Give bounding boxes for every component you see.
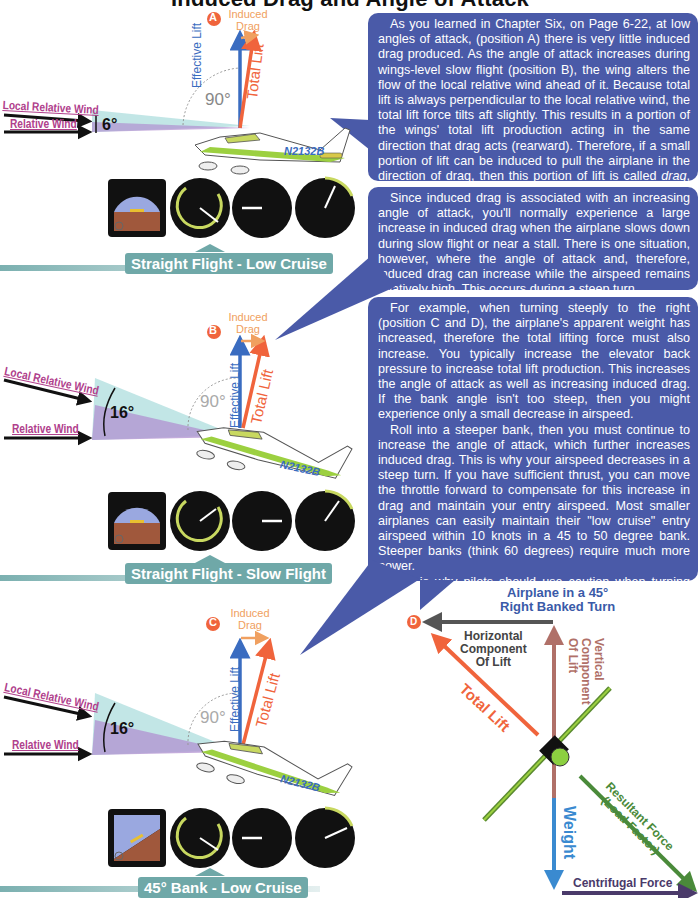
- airspeed-indicator: [170, 178, 230, 238]
- horizontal-component-label: Horizontal Component Of Lift: [460, 630, 527, 669]
- position-badge-a: A: [209, 11, 217, 23]
- weight-label: Weight: [560, 806, 578, 859]
- airplane-b: [191, 415, 352, 492]
- tachometer: [295, 808, 355, 868]
- flight-condition-banner-c: 45° Bank - Low Cruise: [138, 877, 308, 898]
- vertical-component-label: Vertical Component Of Lift: [566, 638, 605, 705]
- instrument-panel-c: [108, 808, 355, 868]
- induced-drag-label-b: Induced Drag: [228, 311, 268, 335]
- relative-wind-label-a: Relative Wind: [10, 117, 77, 131]
- tachometer: [295, 178, 355, 238]
- position-badge-b: B: [209, 324, 217, 336]
- centrifugal-force-label: Centrifugal Force: [573, 876, 672, 890]
- flight-condition-banner-b: Straight Flight - Slow Flight: [125, 563, 332, 584]
- vertical-speed-indicator: [232, 178, 292, 238]
- vertical-speed-indicator: [232, 808, 292, 868]
- attitude-indicator: [108, 179, 166, 237]
- angle-of-attack-label-a: 6°: [102, 116, 117, 134]
- effective-lift-label-a: Effective Lift: [190, 8, 204, 88]
- angle-90-label-b: 90°: [200, 392, 226, 412]
- angle-90-label-c: 90°: [200, 708, 226, 728]
- airspeed-indicator: [170, 808, 230, 868]
- tachometer: [295, 491, 355, 551]
- effective-lift-label-b: Effective Lift: [228, 363, 242, 428]
- position-badge-d: D: [410, 616, 417, 627]
- tail-number-a: N2132B: [284, 145, 324, 157]
- flight-condition-banner-a: Straight Flight - Low Cruise: [125, 253, 333, 274]
- angle-90-label-a: 90°: [205, 90, 231, 110]
- induced-drag-label-a: Induced Drag: [228, 8, 268, 32]
- instrument-panel-b: [108, 491, 355, 551]
- attitude-indicator: [108, 809, 166, 867]
- airplane-a: [195, 128, 350, 174]
- angle-of-attack-label-c: 16°: [110, 720, 134, 738]
- airplane-c: [191, 727, 353, 809]
- bank-title: Airplane in a 45° Right Banked Turn: [500, 586, 615, 614]
- effective-lift-label-c: Effective Lift: [228, 667, 242, 732]
- airspeed-indicator: [170, 491, 230, 551]
- induced-drag-label-c: Induced Drag: [230, 607, 270, 631]
- diagram-canvas: [0, 0, 700, 898]
- angle-of-attack-label-b: 16°: [110, 404, 134, 422]
- relative-wind-label-c: Relative Wind: [12, 738, 79, 752]
- relative-wind-label-b: Relative Wind: [12, 422, 79, 436]
- vertical-speed-indicator: [232, 491, 292, 551]
- position-badge-c: C: [209, 616, 217, 628]
- attitude-indicator: [108, 492, 166, 550]
- instrument-panel-a: [108, 178, 355, 238]
